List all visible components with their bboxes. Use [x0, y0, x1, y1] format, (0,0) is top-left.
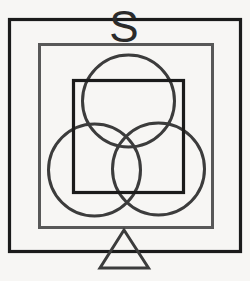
letter-s-glyph: S	[109, 2, 138, 51]
geometric-figure-canvas: S	[0, 0, 250, 281]
figure-stage: S	[0, 0, 250, 281]
